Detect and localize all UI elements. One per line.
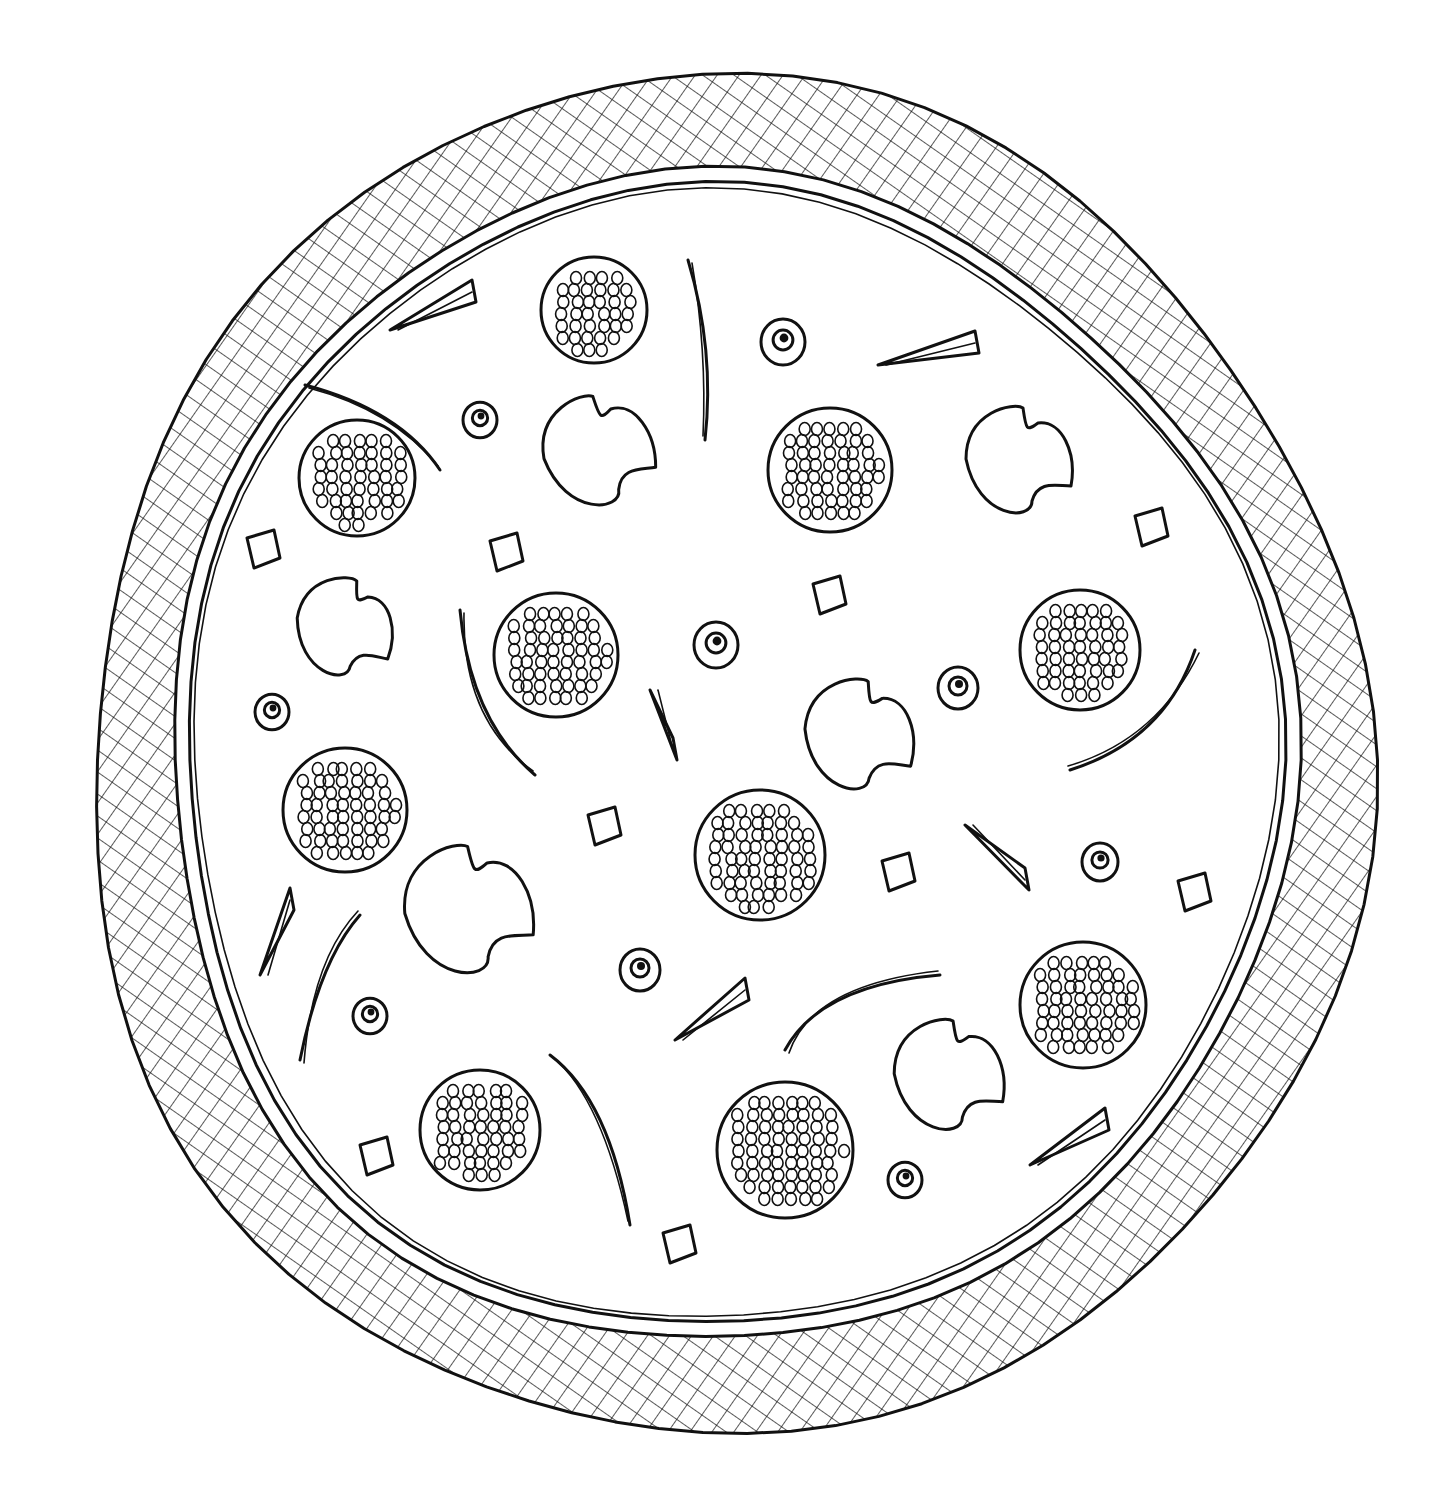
pepperoni [717, 1082, 853, 1218]
pepperoni [768, 408, 892, 532]
olive [1082, 843, 1118, 881]
olive [353, 998, 387, 1034]
olive [761, 319, 805, 365]
pizza-illustration [0, 0, 1449, 1499]
pepperoni [299, 420, 415, 536]
pepperoni [283, 748, 407, 872]
pepperoni [1020, 590, 1140, 710]
olive [888, 1162, 922, 1198]
olive [255, 694, 289, 730]
olive [463, 402, 497, 438]
pizza-drawing [0, 0, 1449, 1499]
olive [620, 949, 660, 991]
olive [938, 667, 978, 709]
olive [694, 622, 738, 668]
crust [0, 0, 1449, 1499]
pepperoni [695, 790, 825, 920]
pepperoni [494, 593, 618, 717]
pepperoni [1020, 942, 1146, 1068]
pepperoni [541, 257, 647, 363]
pepperoni [420, 1070, 540, 1190]
